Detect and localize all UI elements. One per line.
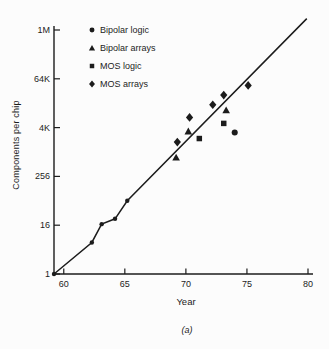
- trend-line-dot: [52, 272, 56, 276]
- trend-line: [54, 19, 307, 274]
- scatter-point-mos-arrays: [186, 113, 193, 122]
- y-tick-label: 256: [35, 171, 50, 181]
- y-axis-title: Components per chip: [11, 100, 21, 189]
- scatter-point-bipolar-arrays: [222, 106, 230, 113]
- x-tick-label: 70: [181, 279, 191, 289]
- scatter-point-mos-logic: [197, 136, 202, 141]
- scatter-point-bipolar-logic: [232, 129, 238, 135]
- components-per-chip-chart: 1162564K64K1M6065707580Bipolar logicBipo…: [0, 0, 329, 349]
- y-tick-label: 16: [40, 220, 50, 230]
- trend-line-dot: [99, 222, 103, 226]
- legend-label: Bipolar arrays: [100, 43, 156, 53]
- moore-law-figure: 1162564K64K1M6065707580Bipolar logicBipo…: [0, 0, 329, 349]
- x-tick-label: 75: [242, 279, 252, 289]
- y-tick-label: 1: [45, 269, 50, 279]
- legend-marker-diamond-icon: [89, 80, 95, 87]
- legend-label: MOS arrays: [100, 79, 149, 89]
- y-tick-label: 4K: [39, 123, 50, 133]
- y-tick-label: 64K: [34, 74, 50, 84]
- x-tick-label: 65: [120, 279, 130, 289]
- figure-caption: (a): [182, 325, 193, 335]
- trend-line-dot: [125, 199, 129, 203]
- x-tick-label: 60: [59, 279, 69, 289]
- scatter-point-mos-arrays: [220, 91, 227, 100]
- legend-marker-square-icon: [90, 64, 94, 68]
- scatter-point-bipolar-arrays: [185, 128, 193, 135]
- legend-marker-triangle-icon: [89, 45, 95, 51]
- scatter-point-mos-arrays: [209, 100, 216, 109]
- scatter-point-mos-logic: [221, 121, 226, 126]
- x-tick-label: 80: [303, 279, 313, 289]
- trend-line-dot: [113, 217, 117, 221]
- legend-label: Bipolar logic: [100, 25, 150, 35]
- legend-marker-circle-icon: [90, 28, 95, 33]
- x-axis-title: Year: [176, 296, 195, 307]
- trend-line-dot: [90, 240, 94, 244]
- y-tick-label: 1M: [37, 25, 50, 35]
- legend-label: MOS logic: [100, 61, 142, 71]
- scatter-point-mos-arrays: [174, 138, 181, 147]
- scatter-point-mos-arrays: [245, 81, 252, 90]
